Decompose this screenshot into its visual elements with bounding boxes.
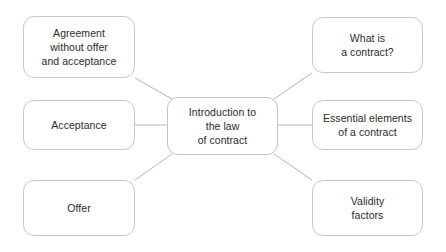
connector-center-to-what-is-a-contract [274, 73, 312, 99]
node-label: Introduction to the law of contract [183, 105, 262, 147]
connector-center-to-validity-factors [274, 154, 312, 180]
node-label: What is a contract? [335, 31, 400, 59]
node-validity-factors[interactable]: Validity factors [312, 180, 423, 236]
node-what-is-a-contract[interactable]: What is a contract? [312, 17, 423, 73]
connector-center-to-offer [135, 154, 172, 180]
connector-center-to-agreement [135, 78, 172, 99]
node-offer[interactable]: Offer [23, 180, 135, 236]
node-introduction-to-the-law-of-contract[interactable]: Introduction to the law of contract [167, 97, 278, 155]
node-acceptance[interactable]: Acceptance [23, 100, 135, 150]
diagram-canvas: Agreement without offer and acceptance A… [0, 0, 446, 252]
node-label: Offer [61, 201, 96, 215]
node-label: Essential elements of a contract [317, 111, 418, 139]
node-essential-elements-of-a-contract[interactable]: Essential elements of a contract [312, 100, 423, 150]
node-label: Validity factors [345, 194, 390, 222]
node-label: Acceptance [45, 118, 112, 132]
node-label: Agreement without offer and acceptance [36, 26, 123, 68]
node-agreement-without-offer-and-acceptance[interactable]: Agreement without offer and acceptance [23, 16, 135, 78]
